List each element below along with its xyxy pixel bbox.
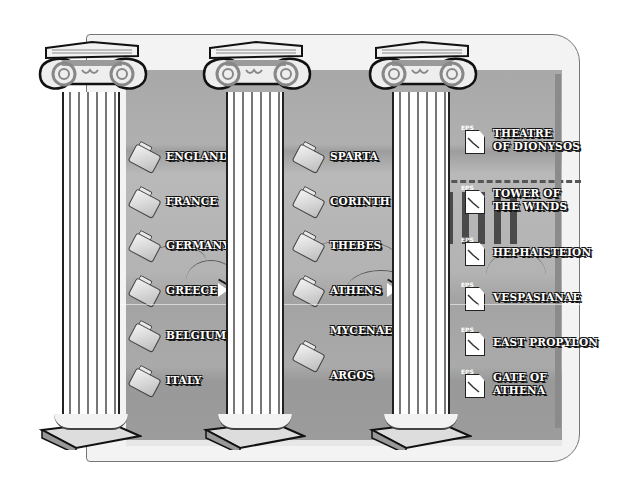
file-label: THEATRE <box>493 127 580 140</box>
column-shaft <box>226 92 284 422</box>
file-label: EAST PROPYLON <box>493 336 598 349</box>
file-label: ATHENA <box>493 384 547 397</box>
file-label: OF DIONYSOS <box>493 140 580 153</box>
column-shaft <box>62 92 120 422</box>
file-item-hephaisteion[interactable]: EPS HEPHAISTEION <box>463 238 591 266</box>
ionic-capital-icon <box>362 40 482 98</box>
file-label: HEPHAISTEION <box>493 246 591 259</box>
ionic-column-1 <box>32 40 152 460</box>
column-shaft <box>392 92 450 422</box>
ionic-capital-icon <box>32 40 152 98</box>
file-item-east-propylon[interactable]: EPS EAST PROPYLON <box>463 328 598 356</box>
file-label: TOWER OF <box>493 187 567 200</box>
ionic-column-3 <box>362 40 482 460</box>
file-label: THE WINDS <box>493 200 567 213</box>
file-label: VESPASIANAE <box>493 291 581 304</box>
ionic-column-2 <box>196 40 316 460</box>
file-label: GATE OF <box>493 371 547 384</box>
ionic-capital-icon <box>196 40 316 98</box>
